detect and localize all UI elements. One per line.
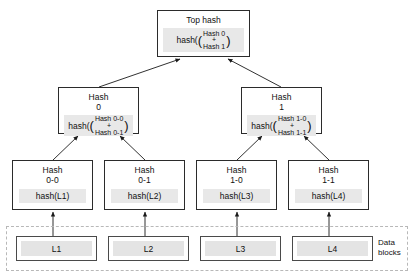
node-hash-1-0-title: Hash 1-0	[227, 161, 247, 185]
node-hash-1-expression: hash( ( Hash 1-0 + Hash 1-1 )	[247, 115, 316, 136]
node-hash-0-1-expression: hash(L2)	[111, 189, 178, 203]
node-hash-1-0-expression: hash(L3)	[203, 189, 270, 203]
node-hash-0-expression: hash( ( Hash 0-0 + Hash 0-1 )	[64, 115, 133, 136]
operand-b: Hash 0-1	[95, 129, 123, 137]
edge-hash10-to-hash1	[237, 136, 262, 160]
edge-hash01-to-hash0	[120, 136, 145, 160]
node-hash-0-1: Hash 0-1 hash(L2)	[104, 160, 185, 210]
node-hash-0: Hash 0 hash( ( Hash 0-0 + Hash 0-1 )	[58, 87, 139, 134]
node-hash-1: Hash 1 hash( ( Hash 1-0 + Hash 1-1 )	[241, 87, 322, 134]
operand-stack: Hash 1-0 + Hash 1-1	[277, 115, 307, 136]
edge-hash0-to-top	[99, 59, 180, 87]
operand-stack: Hash 0-0 + Hash 0-1	[94, 115, 124, 136]
node-hash-1-1: Hash 1-1 hash(L4)	[288, 160, 369, 210]
operand-b: Hash 1	[203, 43, 225, 51]
node-hash-1-title: Hash 1	[272, 88, 292, 112]
node-hash-0-0-expression: hash(L1)	[19, 189, 86, 203]
data-block-l2: L2	[108, 236, 189, 261]
edge-hash11-to-hash1	[304, 136, 329, 160]
data-blocks-label: Data blocks	[378, 238, 412, 257]
operand-b: Hash 1-1	[278, 129, 306, 137]
node-top-hash: Top hash hash( ( Hash 0 + Hash 1 )	[157, 10, 250, 57]
node-top-hash-expression: hash( ( Hash 0 + Hash 1 )	[163, 28, 244, 52]
data-block-l1: L1	[16, 236, 97, 261]
node-hash-1-0: Hash 1-0 hash(L3)	[196, 160, 277, 210]
node-top-hash-title: Top hash	[186, 11, 221, 25]
hash-function-label: hash(	[251, 121, 272, 131]
close-paren-glyph: )	[226, 34, 230, 47]
operand-stack: Hash 0 + Hash 1	[202, 30, 226, 51]
data-block-l1-label: L1	[21, 241, 92, 256]
hash-function-label: hash(	[176, 35, 197, 45]
node-hash-0-title: Hash 0	[89, 88, 109, 112]
close-paren-glyph: )	[307, 119, 311, 132]
node-hash-0-0: Hash 0-0 hash(L1)	[12, 160, 93, 210]
merkle-tree-diagram: Top hash hash( ( Hash 0 + Hash 1 ) Hash …	[0, 0, 414, 277]
data-block-l3-label: L3	[205, 241, 276, 256]
data-block-l2-label: L2	[113, 241, 184, 256]
close-paren-glyph: )	[124, 119, 128, 132]
node-hash-1-1-title: Hash 1-1	[319, 161, 339, 185]
edge-hash1-to-top	[228, 59, 281, 87]
edge-hash00-to-hash0	[53, 136, 78, 160]
node-hash-1-1-expression: hash(L4)	[295, 189, 362, 203]
data-block-l4: L4	[292, 236, 373, 261]
node-hash-0-0-title: Hash 0-0	[43, 161, 63, 185]
node-hash-0-1-title: Hash 0-1	[135, 161, 155, 185]
data-block-l3: L3	[200, 236, 281, 261]
hash-function-label: hash(	[68, 121, 89, 131]
data-block-l4-label: L4	[297, 241, 368, 256]
